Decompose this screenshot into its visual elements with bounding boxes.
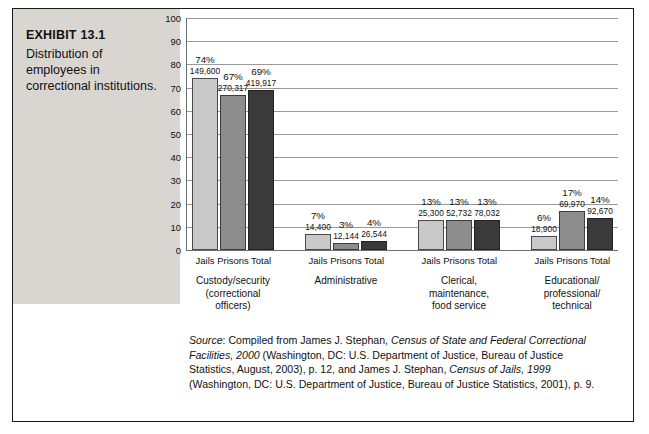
group-label: Custody/security(correctionalofficers) [168,275,298,313]
exhibit-page: EXHIBIT 13.1 Distribution of employees i… [0,0,649,434]
bar-category-label: Total [477,255,497,266]
y-axis-tick: 80 [170,59,181,70]
bar [333,243,359,250]
bar-category-label: Jails [534,255,553,266]
y-axis-line [186,18,187,251]
y-axis-tick: 50 [170,129,181,140]
bar [361,241,387,250]
bar-value-label: 26,544 [361,229,387,239]
y-axis-tick: 30 [170,175,181,186]
source-text-1: : Compiled from James J. Stephan, [223,334,391,346]
bar-category-label: Total [251,255,271,266]
bar [446,220,472,250]
gridline [186,250,618,251]
bar [587,218,613,250]
source-text-3: (Washington, DC: U.S. Department of Just… [189,378,594,390]
bar [192,78,218,250]
y-axis-tick: 40 [170,152,181,163]
bar [418,220,444,250]
bar-category-label: Total [364,255,384,266]
bar-value-label: 52,732 [446,208,472,218]
bar [559,211,585,250]
group-label: Educational/professional/technical [507,275,637,313]
bar-value-label: 12,144 [333,231,359,241]
group-label: Clerical,maintenance,food service [394,275,524,313]
bar [474,220,500,250]
gridline [186,18,618,19]
bar-percent-label: 4% [367,217,381,228]
source-lead: Source [189,334,223,346]
bar-percent-label: 14% [590,194,610,205]
bar-value-label: 419,917 [246,78,276,88]
bar-category-label: Prisons [443,255,475,266]
y-axis-tick: 60 [170,105,181,116]
bar-category-label: Jails [308,255,327,266]
bar-category-label: Total [590,255,610,266]
y-axis-tick: 70 [170,82,181,93]
bar-percent-label: 13% [477,196,497,207]
bar-category-label: Jails [195,255,214,266]
bar-percent-label: 13% [449,196,469,207]
bar [305,234,331,250]
gridline [186,41,618,42]
bar-percent-label: 67% [223,71,243,82]
bar-value-label: 69,970 [559,199,585,209]
bar [220,95,246,250]
bar-percent-label: 3% [339,219,353,230]
y-axis-tick: 90 [170,36,181,47]
bar-percent-label: 69% [251,66,271,77]
group-label: Administrative [281,275,411,288]
source-italic-2: Census of Jails, 1999 [449,363,550,375]
bar-percent-label: 17% [562,187,582,198]
y-axis-tick: 20 [170,198,181,209]
bar-value-label: 92,670 [587,206,613,216]
bar-category-label: Prisons [330,255,362,266]
bar-value-label: 78,032 [474,208,500,218]
bar-percent-label: 6% [537,212,551,223]
y-axis-tick: 100 [165,13,181,24]
source-note: Source: Compiled from James J. Stephan, … [189,333,610,391]
bar-chart: 010203040506070809010074%149,600Jails67%… [186,18,618,270]
bar-category-label: Prisons [217,255,249,266]
bar [531,236,557,250]
bar-value-label: 149,600 [190,66,220,76]
exhibit-number: EXHIBIT 13.1 [26,28,166,42]
bar-percent-label: 13% [421,196,441,207]
bar-value-label: 14,400 [305,222,331,232]
exhibit-caption: Distribution of employees in correctiona… [26,46,161,94]
bar-percent-label: 74% [195,54,215,65]
bar-value-label: 18,900 [531,224,557,234]
bar-value-label: 25,300 [418,208,444,218]
bar-category-label: Prisons [556,255,588,266]
bar [248,90,274,250]
bar-category-label: Jails [421,255,440,266]
y-axis-tick: 0 [176,245,181,256]
y-axis-tick: 10 [170,221,181,232]
bar-value-label: 270,317 [218,83,248,93]
bar-percent-label: 7% [311,210,325,221]
